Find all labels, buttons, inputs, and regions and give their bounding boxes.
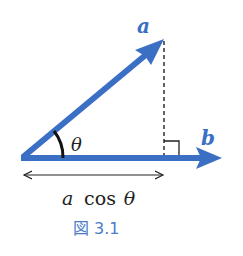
projection-var: a (62, 187, 73, 209)
angle-theta-label: θ (71, 134, 82, 155)
projection-angle: θ (124, 187, 136, 209)
projection-formula: a cos θ (62, 187, 136, 209)
projection-func: cos (84, 187, 116, 209)
vector-a-shaft (23, 53, 148, 157)
vector-a-label: a (137, 14, 150, 38)
figure-caption: 図 3.1 (73, 219, 120, 238)
vector-projection-diagram: a b θ a cos θ 図 3.1 (0, 0, 243, 256)
angle-arc (54, 131, 63, 158)
vector-b-label: b (201, 126, 215, 150)
